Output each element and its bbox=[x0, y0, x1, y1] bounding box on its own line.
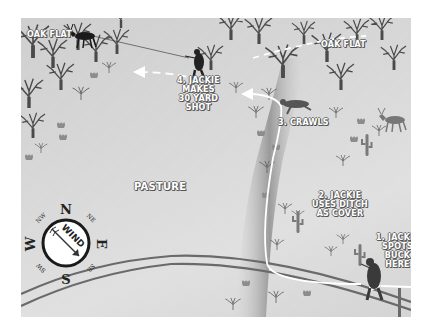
compass-e: E bbox=[94, 239, 109, 249]
wind-compass: WIND N S E W NW NE SE SW bbox=[21, 198, 111, 288]
arrow-4 bbox=[133, 66, 145, 78]
compass-icon: WIND N S E W NW NE SE SW bbox=[21, 198, 111, 288]
step-1-line-1: 1. JACKIE bbox=[376, 233, 411, 242]
step-1-line-3: BUCK bbox=[376, 251, 411, 260]
step-4-line-4: SHOT bbox=[177, 103, 220, 112]
compass-w: W bbox=[23, 236, 38, 252]
oak-flat-right-label: OAK FLAT bbox=[321, 40, 366, 49]
hunting-map: OAK FLAT OAK FLAT PASTURE 4. JACKIE MAKE… bbox=[21, 18, 411, 317]
compass-nw: NW bbox=[34, 211, 48, 225]
step-4-label: 4. JACKIE MAKES 30 YARD SHOT bbox=[177, 76, 220, 112]
compass-ne: NE bbox=[85, 212, 97, 224]
step-4-line-2: MAKES bbox=[177, 85, 220, 94]
step-2-line-3: AS COVER bbox=[312, 209, 368, 218]
shot-line bbox=[93, 36, 189, 58]
step-2-line-2: USES DITCH bbox=[312, 200, 368, 209]
step-4-line-3: 30 YARD bbox=[177, 94, 220, 103]
step-4-line-1: 4. JACKIE bbox=[177, 76, 220, 85]
pasture-label: PASTURE bbox=[134, 181, 186, 192]
step-3-line-1: 3. CRAWLS bbox=[278, 118, 329, 127]
oak-flat-left-label: OAK FLAT bbox=[27, 30, 72, 39]
step-3-label: 3. CRAWLS bbox=[278, 118, 329, 127]
step-1-label: 1. JACKIE SPOTS BUCK HERE bbox=[376, 233, 411, 269]
step-2-label: 2. JACKIE USES DITCH AS COVER bbox=[312, 191, 368, 218]
compass-s: S bbox=[61, 272, 70, 287]
compass-n: N bbox=[60, 202, 72, 217]
arrow-3 bbox=[241, 88, 253, 100]
step-1-line-2: SPOTS bbox=[376, 242, 411, 251]
oak-trees-left bbox=[21, 18, 131, 160]
step-2-line-1: 2. JACKIE bbox=[312, 191, 368, 200]
compass-se: SE bbox=[86, 263, 97, 274]
fence-post bbox=[398, 288, 401, 317]
compass-sw: SW bbox=[34, 262, 47, 275]
step-1-line-4: HERE bbox=[376, 260, 411, 269]
